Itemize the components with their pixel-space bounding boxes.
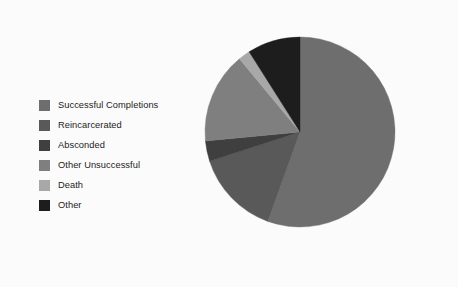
legend-label-other: Other [58,200,82,211]
legend-swatch-reincarcerated [39,120,50,131]
legend-label-successful-completions: Successful Completions [58,100,158,111]
legend-swatch-other-unsuccessful [39,160,50,171]
chart-canvas: Successful Completions Reincarcerated Ab… [0,0,458,287]
legend-item-death[interactable]: Death [39,180,209,191]
pie-chart-figure: Successful Completions Reincarcerated Ab… [0,0,458,287]
legend-swatch-successful-completions [39,100,50,111]
legend-item-absconded[interactable]: Absconded [39,140,209,151]
legend-item-other[interactable]: Other [39,200,209,211]
legend-label-death: Death [58,180,83,191]
pie-chart-graphic [199,29,405,239]
legend-item-reincarcerated[interactable]: Reincarcerated [39,120,209,131]
legend-swatch-death [39,180,50,191]
legend-item-other-unsuccessful[interactable]: Other Unsuccessful [39,160,209,171]
legend-label-absconded: Absconded [58,140,105,151]
pie-slice-group [205,37,395,227]
legend-swatch-absconded [39,140,50,151]
pie-chart-svg [199,29,405,239]
legend-label-other-unsuccessful: Other Unsuccessful [58,160,140,171]
legend-label-reincarcerated: Reincarcerated [58,120,122,131]
legend-swatch-other [39,200,50,211]
pie-chart-legend: Successful Completions Reincarcerated Ab… [39,100,209,220]
legend-item-successful-completions[interactable]: Successful Completions [39,100,209,111]
